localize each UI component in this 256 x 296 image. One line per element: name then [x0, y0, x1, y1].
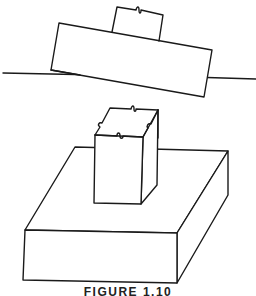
- post: [94, 106, 158, 204]
- figure-caption: FIGURE 1.10: [0, 286, 256, 296]
- tilted-block: [51, 23, 212, 97]
- figure-diagram: [0, 0, 256, 296]
